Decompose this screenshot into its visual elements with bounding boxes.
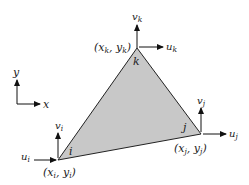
v-i-label: vi xyxy=(55,120,64,133)
node-i-coords: (xi, yi) xyxy=(43,166,76,180)
y-axis-label: y xyxy=(12,66,20,79)
x-axis-label: x xyxy=(43,98,50,111)
u-i-label: ui xyxy=(21,151,30,164)
node-i-label: i xyxy=(69,145,73,158)
node-j-coords: (xj, yj) xyxy=(174,142,207,156)
u-k-label: uk xyxy=(166,41,177,54)
node-k-label: k xyxy=(133,55,140,68)
v-j-label: vj xyxy=(197,95,206,108)
diagram-canvas: y x k vk uk (xk, yk) i vi ui (xi, yi) j xyxy=(0,0,249,185)
triangular-element-diagram: y x k vk uk (xk, yk) i vi ui (xi, yi) j xyxy=(0,0,249,185)
u-j-label: uj xyxy=(229,128,238,141)
node-k: k vk uk (xk, yk) xyxy=(94,11,177,68)
node-k-coords: (xk, yk) xyxy=(94,41,131,55)
v-k-label: vk xyxy=(132,11,143,24)
coordinate-axes: y x xyxy=(12,66,50,111)
node-j: j vj uj (xj, yj) xyxy=(174,95,238,156)
